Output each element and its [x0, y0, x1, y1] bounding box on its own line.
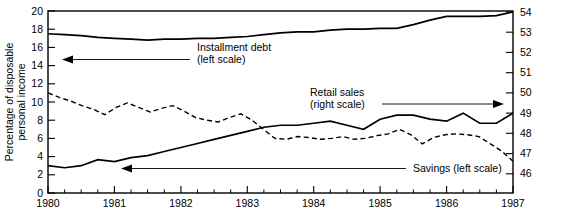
series-savings — [48, 93, 513, 161]
right-tick-label-47: 47 — [520, 147, 532, 159]
left-tick-label-20: 20 — [31, 5, 43, 17]
left-tick-label-6: 6 — [37, 132, 43, 144]
right-tick-label-49: 49 — [520, 107, 532, 119]
annotation-savings: Savings (left scale) — [121, 162, 502, 174]
right-tick-label-46: 46 — [520, 167, 532, 179]
x-tick-label-1985: 1985 — [368, 197, 392, 209]
left-tick-label-14: 14 — [31, 59, 43, 71]
left-tick-label-8: 8 — [37, 114, 43, 126]
left-tick-label-10: 10 — [31, 96, 43, 108]
series-installment-debt — [48, 12, 513, 40]
x-axis: 1980 1981 1982 1983 1984 1985 1986 1987 — [36, 186, 525, 209]
right-tick-label-50: 50 — [520, 86, 532, 98]
arrow-right-icon — [493, 100, 504, 108]
annotation-retail-sales-line2: (right scale) — [310, 98, 365, 110]
x-tick-label-1986: 1986 — [435, 197, 459, 209]
x-axis-ticks — [48, 186, 513, 193]
series-group — [48, 12, 513, 168]
annotation-retail-sales-line1: Retail sales — [310, 86, 364, 98]
y-axis-title: Percentage of disposable personal income — [3, 43, 27, 162]
left-tick-label-4: 4 — [37, 150, 43, 162]
annotation-retail-sales: Retail sales (right scale) — [310, 86, 504, 110]
x-tick-label-1983: 1983 — [236, 197, 260, 209]
arrow-left-icon-savings — [121, 165, 132, 173]
x-tick-label-1982: 1982 — [169, 197, 193, 209]
y-axis-title-line2: personal income — [15, 63, 27, 140]
annotation-installment-debt-line2: (left scale) — [197, 53, 245, 65]
right-tick-label-52: 52 — [520, 46, 532, 58]
right-axis-ticks — [506, 12, 513, 174]
y-axis-title-line1: Percentage of disposable — [3, 43, 15, 162]
x-tick-label-1980: 1980 — [36, 197, 60, 209]
left-tick-label-12: 12 — [31, 77, 43, 89]
series-retail-sales — [48, 113, 513, 168]
annotation-installment-debt: Installment debt (left scale) — [62, 41, 271, 65]
left-tick-label-16: 16 — [31, 41, 43, 53]
x-tick-label-1984: 1984 — [302, 197, 326, 209]
right-tick-label-48: 48 — [520, 127, 532, 139]
x-tick-label-1981: 1981 — [103, 197, 127, 209]
right-axis: 46 47 48 49 50 51 52 53 54 — [506, 6, 532, 180]
line-chart: 0 2 4 6 8 10 12 14 16 18 20 Percentage o… — [0, 0, 567, 224]
chart-container: 0 2 4 6 8 10 12 14 16 18 20 Percentage o… — [0, 0, 567, 224]
x-tick-label-1987: 1987 — [501, 197, 525, 209]
right-tick-label-51: 51 — [520, 66, 532, 78]
right-tick-label-53: 53 — [520, 26, 532, 38]
annotation-installment-debt-line1: Installment debt — [197, 41, 271, 53]
annotation-savings-line1: Savings (left scale) — [413, 162, 502, 174]
arrow-left-icon — [62, 56, 73, 64]
right-tick-label-54: 54 — [520, 6, 532, 18]
left-tick-label-2: 2 — [37, 168, 43, 180]
left-tick-label-18: 18 — [31, 23, 43, 35]
